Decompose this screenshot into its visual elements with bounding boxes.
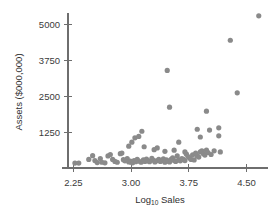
data-point [139, 129, 144, 134]
data-point [165, 68, 170, 73]
data-point [228, 38, 233, 43]
data-point [212, 148, 217, 153]
y-axis-title: Assets ($000,000) [13, 53, 24, 130]
data-point [216, 125, 221, 130]
data-point [204, 109, 209, 114]
data-point [218, 149, 223, 154]
data-point [102, 160, 107, 165]
x-tick-label: 4.50 [237, 177, 256, 188]
data-point [216, 133, 221, 138]
data-point [155, 145, 160, 150]
data-point [115, 160, 120, 165]
data-point [196, 154, 201, 159]
y-tick-label: 2500 [39, 91, 60, 102]
data-point [90, 153, 95, 158]
data-point [119, 150, 124, 155]
x-axis-title: Log10 Sales [135, 194, 185, 206]
data-point [162, 149, 167, 154]
chart-canvas: 1250250037505000 Assets ($000,000) 2.253… [0, 0, 272, 211]
y-tick-label: 3750 [39, 55, 60, 66]
data-point [195, 127, 200, 132]
data-point [176, 140, 181, 145]
y-tick-label: 1250 [39, 127, 60, 138]
x-tick-label: 3.00 [122, 177, 141, 188]
data-point [172, 148, 177, 153]
data-point [86, 157, 91, 162]
y-tick-label: 5000 [39, 19, 60, 30]
data-point [76, 161, 81, 166]
x-axis-title-rest: Sales [158, 194, 185, 205]
x-axis-title-base: Log [135, 194, 151, 205]
data-point [256, 13, 261, 18]
data-point [198, 134, 203, 139]
data-points-layer [72, 13, 261, 165]
data-point [142, 144, 147, 149]
data-point [167, 105, 172, 110]
data-point [235, 90, 240, 95]
x-tick-label: 2.25 [64, 177, 83, 188]
x-axis-tick-labels: 2.253.003.754.50 [64, 177, 256, 188]
data-point [207, 128, 212, 133]
x-tick-label: 3.75 [180, 177, 199, 188]
scatter-plot-figure: 1250250037505000 Assets ($000,000) 2.253… [0, 0, 272, 211]
y-axis-tick-labels: 1250250037505000 [39, 19, 60, 138]
x-axis: 2.253.003.754.50 Log10 Sales [62, 164, 268, 206]
data-point [129, 140, 134, 145]
data-point [108, 152, 113, 157]
data-point [136, 134, 141, 139]
data-point [182, 149, 187, 154]
y-axis: 1250250037505000 Assets ($000,000) [13, 13, 72, 168]
